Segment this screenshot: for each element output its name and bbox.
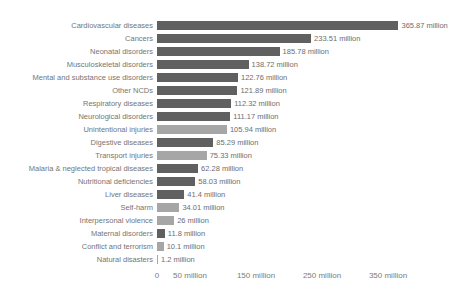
value-label: 112.32 million: [234, 99, 280, 108]
chart-row: Interpersonal violence 26 million: [0, 214, 448, 227]
value-label: 11.8 million: [168, 229, 205, 238]
chart-row: Cardiovascular diseases 365.87 million: [0, 19, 448, 32]
bar[interactable]: [157, 203, 179, 212]
value-label: 121.89 million: [240, 86, 286, 95]
value-label: 75.33 million: [210, 151, 252, 160]
chart-row: Natural disasters 1.2 million: [0, 253, 448, 266]
category-label: Self-harm: [0, 203, 157, 212]
x-axis-tick-label: 350 million: [369, 271, 407, 280]
value-label: 233.51 million: [314, 34, 360, 43]
x-axis-tick-label: 50 million: [173, 271, 207, 280]
category-label: Respiratory diseases: [0, 99, 157, 108]
category-label: Mental and substance use disorders: [0, 73, 157, 82]
value-label: 58.03 million: [198, 177, 240, 186]
bar[interactable]: [157, 125, 227, 134]
chart-row: Transport injuries 75.33 million: [0, 149, 448, 162]
value-label: 85.29 million: [216, 138, 258, 147]
chart-row: Other NCDs 121.89 million: [0, 84, 448, 97]
chart-row: Digestive diseases 85.29 million: [0, 136, 448, 149]
chart-row: Respiratory diseases 112.32 million: [0, 97, 448, 110]
value-label: 10.1 million: [167, 242, 205, 251]
value-label: 41.4 million: [187, 190, 225, 199]
category-label: Cancers: [0, 34, 157, 43]
category-label: Conflict and terrorism: [0, 242, 157, 251]
bar[interactable]: [157, 60, 249, 69]
bar[interactable]: [157, 216, 174, 225]
bar[interactable]: [157, 86, 237, 95]
bar[interactable]: [157, 21, 398, 30]
value-label: 26 million: [177, 216, 209, 225]
category-label: Malaria & neglected tropical diseases: [0, 164, 157, 173]
chart-row: Malaria & neglected tropical diseases 62…: [0, 162, 448, 175]
value-label: 365.87 million: [401, 21, 447, 30]
value-label: 1.2 million: [161, 255, 195, 264]
bar[interactable]: [157, 151, 207, 160]
category-label: Unintentional injuries: [0, 125, 157, 134]
chart-row: Neurological disorders 111.17 million: [0, 110, 448, 123]
category-label: Digestive diseases: [0, 138, 157, 147]
bar[interactable]: [157, 255, 158, 264]
category-label: Transport injuries: [0, 151, 157, 160]
chart-row: Neonatal disorders 185.78 million: [0, 45, 448, 58]
value-label: 138.72 million: [252, 60, 298, 69]
bar[interactable]: [157, 242, 164, 251]
chart-row: Mental and substance use disorders 122.7…: [0, 71, 448, 84]
value-label: 185.78 million: [283, 47, 329, 56]
chart-row: Musculoskeletal disorders 138.72 million: [0, 58, 448, 71]
x-axis-tick-label: 150 million: [237, 271, 275, 280]
bar[interactable]: [157, 164, 198, 173]
category-label: Cardiovascular diseases: [0, 21, 157, 30]
value-label: 105.94 million: [230, 125, 276, 134]
category-label: Other NCDs: [0, 86, 157, 95]
value-label: 34.01 million: [182, 203, 224, 212]
chart-row: Nutritional deficiencies 58.03 million: [0, 175, 448, 188]
bar[interactable]: [157, 229, 165, 238]
x-axis-tick-label: 0: [155, 271, 159, 280]
bar[interactable]: [157, 34, 311, 43]
bar[interactable]: [157, 138, 213, 147]
chart-row: Maternal disorders 11.8 million: [0, 227, 448, 240]
category-label: Maternal disorders: [0, 229, 157, 238]
bar[interactable]: [157, 190, 184, 199]
bar[interactable]: [157, 47, 280, 56]
x-axis-tick-label: 250 million: [303, 271, 341, 280]
chart-row: Cancers 233.51 million: [0, 32, 448, 45]
chart-row: Unintentional injuries 105.94 million: [0, 123, 448, 136]
chart-plot-area: Cardiovascular diseases 365.87 million C…: [0, 19, 448, 266]
value-label: 122.76 million: [241, 73, 287, 82]
category-label: Musculoskeletal disorders: [0, 60, 157, 69]
category-label: Interpersonal violence: [0, 216, 157, 225]
bar[interactable]: [157, 177, 195, 186]
value-label: 111.17 million: [233, 112, 278, 121]
chart-row: Conflict and terrorism 10.1 million: [0, 240, 448, 253]
category-label: Nutritional deficiencies: [0, 177, 157, 186]
category-label: Liver diseases: [0, 190, 157, 199]
category-label: Neurological disorders: [0, 112, 157, 121]
bar[interactable]: [157, 112, 230, 121]
bar[interactable]: [157, 99, 231, 108]
category-label: Natural disasters: [0, 255, 157, 264]
value-label: 62.28 million: [201, 164, 243, 173]
bar-chart: Cardiovascular diseases 365.87 million C…: [0, 0, 462, 294]
x-axis: 0 50 million 150 million 250 million 350…: [157, 271, 457, 283]
chart-row: Self-harm 34.01 million: [0, 201, 448, 214]
category-label: Neonatal disorders: [0, 47, 157, 56]
chart-row: Liver diseases 41.4 million: [0, 188, 448, 201]
bar[interactable]: [157, 73, 238, 82]
